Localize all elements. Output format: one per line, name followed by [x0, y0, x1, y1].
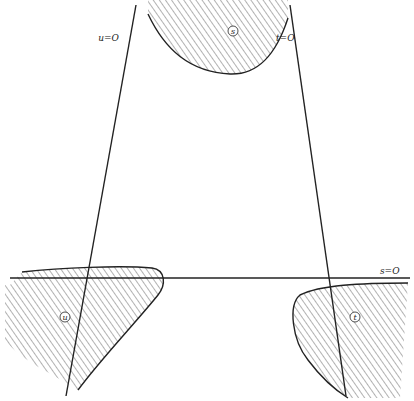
region-label-s: s	[231, 27, 235, 36]
region-label-u: u	[62, 313, 67, 322]
label-t: t=O	[276, 33, 295, 43]
label-u: u=O	[98, 33, 119, 43]
label-s: s=O	[380, 266, 400, 276]
region-t: t	[293, 283, 408, 398]
diagram-canvas: s u t u=O t=O s=O	[0, 0, 414, 401]
region-u: u	[5, 267, 163, 390]
region-s: s	[148, 0, 288, 74]
